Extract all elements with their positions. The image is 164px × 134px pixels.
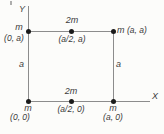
mass-label-top-middle: 2m — [60, 16, 84, 25]
coord-label-top-right: (a, a) — [127, 25, 147, 35]
coord-label-top-left: (0, a) — [0, 34, 28, 43]
square-right-edge — [113, 31, 114, 101]
mass-label-top-left: m — [12, 23, 26, 32]
coord-label-bottom-left: (0, 0) — [6, 113, 34, 122]
mass-coord-label-top-right: m (a, a) — [117, 26, 147, 35]
y-axis-label: Y — [19, 5, 25, 14]
y-axis-line — [28, 6, 29, 101]
coord-label-bottom-right: (a, 0) — [99, 113, 127, 122]
mass-dot-top-right — [111, 29, 116, 34]
mass-square-diagram: Y X a a m (0, a) 2m (a/2, a) m (a, a) m … — [0, 0, 164, 134]
coord-label-top-middle: (a/2, a) — [52, 35, 92, 44]
mass-label-top-right: m — [117, 25, 125, 35]
coord-label-bottom-middle: (a/2, 0) — [51, 105, 91, 114]
x-axis-line — [28, 101, 150, 102]
stray-mark — [10, 1, 12, 5]
x-axis-label: X — [152, 92, 158, 101]
mass-label-bottom-middle: 2m — [59, 87, 83, 96]
right-side-length-label: a — [116, 60, 121, 69]
left-side-length-label: a — [19, 60, 24, 69]
